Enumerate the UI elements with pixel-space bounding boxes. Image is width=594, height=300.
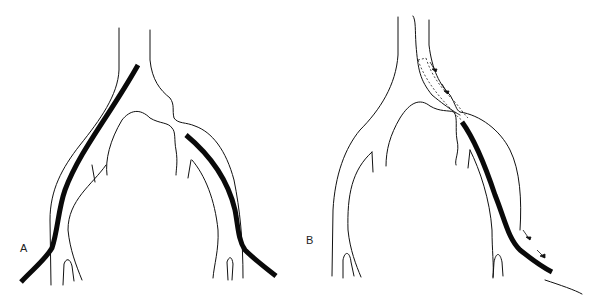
panel-b-arrows — [430, 62, 545, 258]
catheter-left — [21, 65, 138, 282]
diagram-canvas — [0, 0, 594, 300]
panel-label-b: B — [306, 234, 313, 246]
arrow-head-icon — [432, 69, 437, 72]
catheter-right — [186, 135, 276, 276]
panel-a-catheters — [21, 65, 276, 282]
arrow-head-icon — [540, 254, 545, 258]
arrow-head-icon — [526, 237, 531, 240]
panel-b-vessels — [332, 16, 582, 294]
panel-label-a: A — [20, 242, 27, 254]
